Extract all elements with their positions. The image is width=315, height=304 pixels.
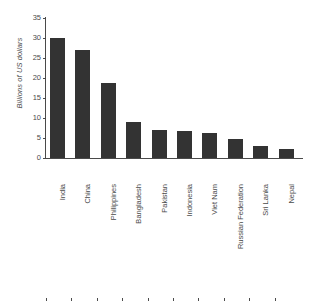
y-tick-label: 5 <box>37 132 41 143</box>
x-axis-line <box>45 158 303 159</box>
x-tick-label: Russian Federation <box>235 184 246 304</box>
x-tick-label: Sri Lanka <box>260 184 271 304</box>
bar <box>101 83 116 158</box>
y-tick-label: 10 <box>33 112 41 123</box>
x-tick-label: Bangladesh <box>133 184 144 304</box>
bar <box>253 146 268 158</box>
bar <box>50 38 65 158</box>
x-tick-mark <box>173 298 174 301</box>
x-tick-label: Philippines <box>108 184 119 304</box>
bar <box>228 139 243 158</box>
x-tick-mark <box>224 298 225 301</box>
x-tick-mark <box>71 298 72 301</box>
y-tick-mark <box>43 118 46 119</box>
y-tick-mark <box>43 98 46 99</box>
x-tick-label: India <box>57 184 68 304</box>
x-tick-label: Viet Nam <box>209 184 220 304</box>
x-tick-mark <box>275 298 276 301</box>
x-tick-label: China <box>82 184 93 304</box>
plot-area: 05101520253035 IndiaChinaPhilippinesBang… <box>46 18 300 158</box>
y-tick-label: 35 <box>33 12 41 23</box>
bar <box>152 130 167 158</box>
bar <box>279 149 294 158</box>
x-tick-label: Pakistan <box>159 184 170 304</box>
x-tick-mark <box>122 298 123 301</box>
y-axis-title: Billions of US dollars <box>14 0 26 148</box>
y-tick-mark <box>43 138 46 139</box>
y-tick-mark <box>43 18 46 19</box>
y-tick-mark <box>43 158 46 159</box>
y-tick-label: 25 <box>33 52 41 63</box>
x-tick-label: Nepal <box>286 184 297 304</box>
bar <box>75 50 90 158</box>
y-tick-label: 0 <box>37 152 41 163</box>
y-tick-label: 15 <box>33 92 41 103</box>
bar <box>202 133 217 158</box>
x-tick-label: Indonesia <box>184 184 195 304</box>
x-tick-mark <box>148 298 149 301</box>
x-tick-mark <box>198 298 199 301</box>
y-tick-label: 30 <box>33 32 41 43</box>
bar <box>126 122 141 158</box>
y-tick-label: 20 <box>33 72 41 83</box>
y-tick-mark <box>43 38 46 39</box>
bar <box>177 131 192 158</box>
y-tick-mark <box>43 58 46 59</box>
y-tick-mark <box>43 78 46 79</box>
x-tick-mark <box>97 298 98 301</box>
x-tick-mark <box>46 298 47 301</box>
x-tick-mark <box>249 298 250 301</box>
